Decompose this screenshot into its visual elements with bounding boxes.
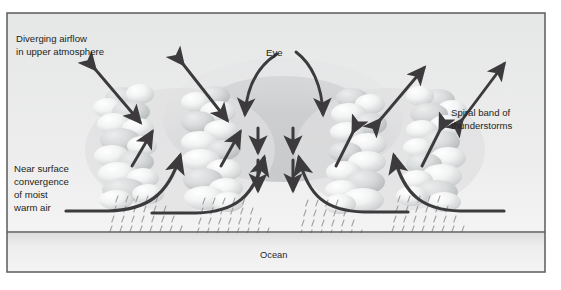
label-near-surface-line1: Near surface (14, 163, 69, 174)
hurricane-cross-section-diagram: severe weather williams dramatic tropica… (0, 0, 561, 290)
label-spiral-band-line2: thunderstorms (451, 120, 513, 131)
label-diverging-airflow-line1: Diverging airflow (16, 33, 87, 44)
label-near-surface-line4: warm air (13, 202, 52, 213)
label-ocean: Ocean (260, 250, 287, 260)
label-spiral-band-line1: Spiral band of (451, 107, 511, 118)
figure-canvas: severe weather williams dramatic tropica… (0, 0, 561, 290)
label-near-surface-line3: of moist (14, 189, 48, 200)
label-diverging-airflow-line2: in upper atmosphere (16, 46, 104, 57)
label-eye: Eye (266, 47, 283, 58)
label-near-surface-line2: convergence (14, 176, 69, 187)
